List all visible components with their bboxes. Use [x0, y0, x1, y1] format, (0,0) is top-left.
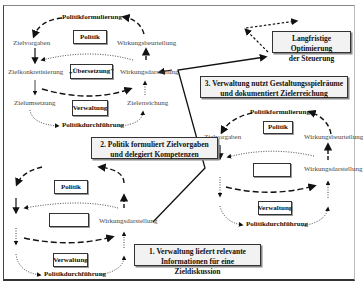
callout-step-1-line-1: 1. Verwaltung liefert relevante: [138, 247, 257, 257]
arrow-r-to-politikformulierung: [310, 112, 331, 134]
box-uebersetzung-tl: „Übersetzung": [70, 64, 113, 79]
label-wirkungsdarstellung-tl: Wirkungsdarstellung: [120, 69, 178, 76]
arrow-to-zielvorgaben: [34, 18, 62, 36]
arrow-r-to-zielvorgaben: [222, 113, 252, 132]
box-empty-bl: [49, 213, 89, 227]
arrow-to-politikformulierung: [124, 17, 144, 34]
callout-step-3: 3. Verwaltung nutzt Gestaltungsspielräum…: [200, 76, 348, 98]
box-verwaltung-bl: Verwaltung: [53, 253, 88, 267]
label-zielkonkretisierung-tl: Zielkonkretisierung: [8, 69, 63, 76]
label-politikdurchfuehrung-bl: Politikdurchführung: [44, 271, 106, 278]
label-wirkungsbeurteilung-r: Wirkungsbeurteilung: [304, 134, 363, 141]
callout-step-1: 1. Verwaltung liefert relevante Informat…: [134, 244, 261, 266]
callout-step-3-line-1: 3. Verwaltung nutzt Gestaltungsspielräum…: [204, 79, 344, 89]
arrow-optimization-up: [246, 30, 268, 52]
label-zielvorgaben-tl: Zielvorgaben: [13, 40, 50, 47]
box-verwaltung-tl: Verwaltung: [72, 100, 108, 116]
box-verwaltung-r: Verwaltung: [258, 201, 292, 215]
callout-step-1-line-2: Informationen für eine Zieldiskussion: [138, 257, 257, 277]
arrow-bl-middle: [24, 237, 112, 243]
callout-step-2-line-1: 2. Politik formuliert Zielvorgaben: [95, 140, 214, 150]
arrow-bl-to-politikdurchfuehrung: [16, 254, 40, 275]
callout-step-2: 2. Politik formuliert Zielvorgaben und d…: [91, 137, 218, 159]
label-zielerreichung-tl: Zielerreichung: [127, 100, 168, 107]
box-empty-r: [253, 163, 291, 177]
arrow-to-wirkungsdarstellung: [42, 89, 130, 96]
callout-step-3-line-2: und dokumentiert Zielerreichung: [204, 89, 344, 99]
arrow-feedback-dotted: [42, 54, 133, 60]
box-politik-bl: Politik: [54, 180, 88, 194]
callout-step-2-line-2: und delegiert Kompetenzen: [95, 150, 214, 160]
callout-goal-line-2: der Steuerung: [276, 54, 347, 64]
label-wirkungsdarstellung-r: Wirkungsdarstellung: [304, 166, 362, 173]
callout-langfristige-optimierung: Langfristige Optimierung der Steuerung: [272, 31, 351, 53]
label-wirkungsbeurteilung-tl: Wirkungsbeurteilung: [117, 40, 176, 47]
arrow-optimization-right: [246, 21, 296, 28]
arrow-r-to-politikdurchfuehrung: [220, 206, 242, 225]
arrow-bl-feedback: [25, 203, 118, 208]
arrow-to-politikdurchfuehrung: [30, 110, 58, 126]
label-wirkungsdarstellung-bl: Wirkungsdarstellung: [99, 218, 157, 225]
box-politik-tl: Politik: [73, 30, 107, 44]
arrow-bl-top-right: [100, 167, 124, 183]
label-politikformulierung-tl: Politikformulierung: [62, 14, 122, 21]
arrow-bl-top-left: [17, 167, 42, 184]
label-zielumsetzung-tl: Zielumsetzung: [14, 100, 56, 107]
label-politikdurchfuehrung-tl: Politikdurchführung: [62, 122, 124, 129]
arrow-r-middle: [226, 186, 314, 192]
callout-goal-line-1: Langfristige Optimierung: [276, 34, 347, 54]
arrow-r-feedback: [228, 151, 314, 157]
label-politikformulierung-r: Politikformulierung: [250, 109, 310, 116]
label-politikdurchfuehrung-r: Politikdurchführung: [246, 221, 308, 228]
box-politik-r: Politik: [263, 121, 293, 134]
